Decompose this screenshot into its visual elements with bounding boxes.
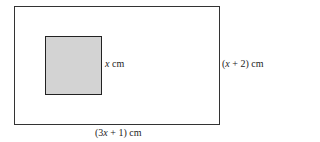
rectangle-height-label: (x + 2) cm (222, 59, 263, 69)
rectangle-width-label: (3x + 1) cm (95, 128, 141, 138)
square-side-label: x cm (105, 59, 124, 69)
shaded-square (45, 36, 102, 95)
